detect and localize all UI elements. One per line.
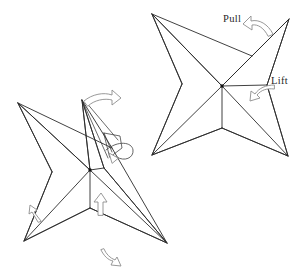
open-arrow-top-left-star: [84, 90, 121, 106]
bottom-arrow: [101, 249, 121, 266]
pull-label: Pull: [223, 14, 241, 25]
lift-label: Lift: [271, 76, 288, 87]
pull-arrow: [243, 16, 273, 36]
flap-hook-arrow: [106, 143, 133, 163]
origami-diagram: Pull Lift: [0, 0, 308, 278]
right-star-hub-dot: [220, 84, 223, 87]
origami-line-drawing: [0, 0, 308, 278]
left-star-hub-dot: [88, 168, 91, 171]
